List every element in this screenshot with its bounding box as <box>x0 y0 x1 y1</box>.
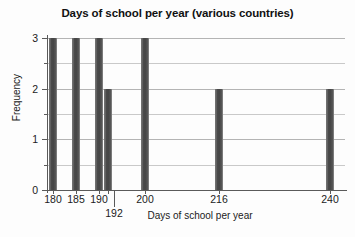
bar-185 <box>72 38 80 190</box>
bar-180 <box>49 38 57 190</box>
x-axis-title: Days of school per year <box>120 210 280 221</box>
y-tick-1 <box>42 139 47 140</box>
plot-area <box>48 38 345 190</box>
y-tick-0 <box>42 190 47 191</box>
bar-chart: Days of school per year (various countri… <box>0 0 355 237</box>
x-tick-label-240: 240 <box>315 194 345 205</box>
y-tick-2-5 <box>44 63 47 64</box>
y-tick-label-1: 1 <box>22 134 38 145</box>
gridline-2-5 <box>48 63 345 64</box>
y-tick-2 <box>42 89 47 90</box>
x-label-leader-192 <box>114 191 115 207</box>
y-axis-title: Frequency <box>11 58 22 138</box>
y-tick-0-5 <box>44 165 47 166</box>
y-tick-label-3: 3 <box>22 33 38 44</box>
chart-title: Days of school per year (various countri… <box>0 7 355 19</box>
bar-190 <box>95 38 103 190</box>
x-tick-label-200: 200 <box>130 194 160 205</box>
gridline-2 <box>48 89 345 90</box>
y-tick-1-5 <box>44 114 47 115</box>
x-axis-line <box>44 190 347 191</box>
bar-192 <box>104 89 112 190</box>
gridline-1-5 <box>48 114 345 115</box>
y-tick-label-2: 2 <box>22 84 38 95</box>
gridline-3 <box>48 38 345 39</box>
x-tick-label-216: 216 <box>204 194 234 205</box>
y-tick-label-0: 0 <box>22 185 38 196</box>
gridline-1 <box>48 139 345 140</box>
x-tick-label-190: 190 <box>84 194 114 205</box>
y-axis-line <box>47 35 48 193</box>
bar-200 <box>141 38 149 190</box>
bar-216 <box>215 89 223 190</box>
bar-240 <box>326 89 334 190</box>
y-tick-3 <box>42 38 47 39</box>
gridline-0-5 <box>48 165 345 166</box>
